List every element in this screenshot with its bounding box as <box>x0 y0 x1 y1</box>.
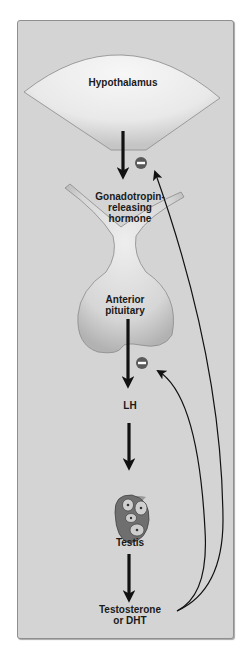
feedback-arrow-to-hypothalamus <box>155 172 223 611</box>
testis-icon <box>115 495 149 543</box>
feedback-arrow-to-pituitary <box>158 371 205 611</box>
inhibition-icon-hypothalamus <box>135 157 147 169</box>
label-anterior-pituitary: Anterior pituitary <box>85 294 165 316</box>
label-lh: LH <box>110 400 150 411</box>
label-anterior-pituitary-line-2: pituitary <box>85 305 165 316</box>
label-anterior-pituitary-line-1: Anterior <box>85 294 165 305</box>
label-testosterone-line-2: or DHT <box>80 615 180 626</box>
label-hypothalamus: Hypothalamus <box>68 77 178 88</box>
label-testis: Testis <box>100 537 160 548</box>
inhibition-icon-pituitary <box>136 357 148 369</box>
diagram-art <box>0 0 247 649</box>
label-gnrh-line-1: Gonadotropin- <box>80 191 180 202</box>
label-gnrh: Gonadotropin- releasing hormone <box>80 191 180 224</box>
label-gnrh-line-2: releasing <box>80 202 180 213</box>
label-testosterone: Testosterone or DHT <box>80 604 180 626</box>
label-testosterone-line-1: Testosterone <box>80 604 180 615</box>
label-gnrh-line-3: hormone <box>80 213 180 224</box>
